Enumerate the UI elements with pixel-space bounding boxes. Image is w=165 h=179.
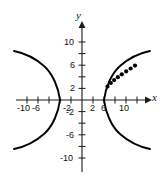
- x-tick-label-6: 6: [101, 104, 106, 113]
- x-tick-label--6: -6: [32, 104, 40, 113]
- x-axis-label: x: [152, 92, 157, 103]
- graph-figure: x y -10 -6 -2 2 6 10 10 6 2 -2 -6 -10: [0, 0, 165, 179]
- x-tick-label-10: 10: [119, 104, 129, 113]
- x-tick-label-2: 2: [90, 104, 95, 113]
- right-branch-upper: [104, 51, 150, 100]
- y-tick-label-10: 10: [64, 38, 74, 47]
- y-tick-label-2: 2: [70, 84, 75, 93]
- y-tick-label--6: -6: [66, 131, 74, 140]
- plotted-data-points: [105, 64, 137, 89]
- y-tick-label--2: -2: [66, 108, 74, 117]
- x-tick-label--10: -10: [17, 104, 30, 113]
- y-axis: [79, 21, 86, 172]
- left-branch-upper: [14, 51, 60, 100]
- y-tick-label--10: -10: [60, 154, 73, 163]
- y-axis-label: y: [76, 10, 81, 21]
- coordinate-plane-svg: [0, 0, 165, 179]
- y-tick-label-6: 6: [70, 61, 75, 70]
